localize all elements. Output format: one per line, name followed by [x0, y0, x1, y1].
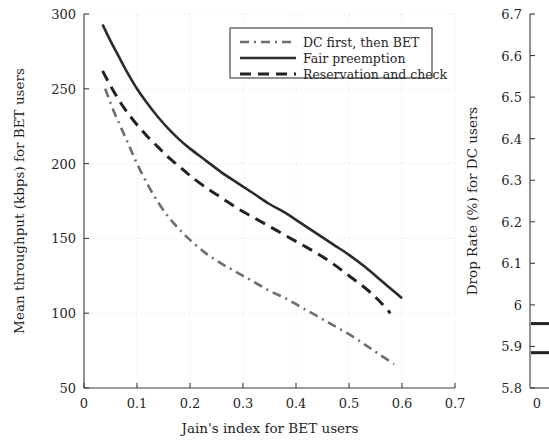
legend-label-2: Reservation and check: [303, 67, 448, 82]
main-x-tick-label-4: 0.4: [286, 396, 307, 411]
main-y-tick-label-3: 200: [51, 157, 76, 172]
main-x-tick-label-3: 0.3: [233, 396, 254, 411]
main-x-tick-label-1: 0.1: [127, 396, 148, 411]
right-y-tick-label-8: 6.6: [501, 49, 522, 64]
right-y-axis-title: Drop Rate (%) for DC users: [464, 107, 480, 296]
legend-label-1: Fair preemption: [303, 51, 405, 66]
main-x-tick-label-7: 0.7: [445, 396, 466, 411]
right-y-tick-label-9: 6.7: [501, 7, 522, 22]
right-y-tick-label-5: 6.3: [501, 173, 522, 188]
main-x-axis-title: Jain's index for BET users: [180, 420, 359, 436]
main-y-tick-label-5: 300: [51, 7, 76, 22]
right-y-tick-label-3: 6.1: [501, 256, 522, 271]
main-x-tick-label-5: 0.5: [339, 396, 360, 411]
main-x-tick-label-6: 0.6: [392, 396, 413, 411]
right-x-tick-label-0: 0: [533, 396, 541, 411]
main-y-tick-label-4: 250: [51, 82, 76, 97]
legend-label-0: DC first, then BET: [303, 35, 420, 50]
main-x-tick-label-2: 0.2: [180, 396, 201, 411]
right-y-tick-label-1: 5.9: [501, 339, 522, 354]
main-y-tick-label-0: 50: [59, 381, 76, 396]
chart-legend: DC first, then BETFair preemptionReserva…: [230, 28, 448, 82]
right-y-tick-label-6: 6.4: [501, 132, 522, 147]
right-y-tick-label-4: 6.2: [501, 215, 522, 230]
main-x-tick-label-0: 0: [80, 396, 88, 411]
main-y-axis-title: Mean throughput (kbps) for BET users: [11, 68, 27, 334]
chart-canvas: 00.10.20.30.40.50.60.7 50100150200250300…: [0, 0, 549, 448]
main-y-tick-label-2: 150: [51, 231, 76, 246]
main-y-tick-label-1: 100: [51, 306, 76, 321]
right-y-tick-label-7: 6.5: [501, 90, 522, 105]
right-y-tick-label-0: 5.8: [501, 381, 522, 396]
figure-container: 00.10.20.30.40.50.60.7 50100150200250300…: [0, 0, 549, 448]
right-y-tick-label-2: 6: [514, 298, 522, 313]
